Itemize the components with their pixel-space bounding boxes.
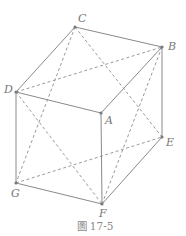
dashed-edge-db [16,47,162,92]
dashed-edge-ge [16,137,162,183]
solid-edge-cd [16,27,75,92]
vertex-points [14,25,163,205]
vertex-label-c: C [78,12,87,25]
solid-edges [16,27,162,204]
vertex-label-e: E [165,136,174,149]
vertex-point-c [73,25,76,28]
dashed-edge-cg [16,27,75,183]
solid-edge-fe [102,137,162,204]
figure-caption: 圖 17-5 [77,220,114,232]
cube-diagram: ABCDEFG 圖 17-5 [0,0,186,236]
vertex-point-g [14,181,17,184]
vertex-label-b: B [167,40,176,53]
vertex-point-a [99,111,102,114]
vertex-point-f [100,202,103,205]
dashed-edges [16,27,162,204]
vertex-point-e [160,135,163,138]
vertex-labels: ABCDEFG [3,12,176,220]
vertex-point-b [160,45,163,48]
vertex-label-d: D [3,83,13,96]
vertex-point-d [14,90,17,93]
vertex-label-a: A [104,114,113,127]
vertex-label-g: G [11,187,20,200]
vertex-label-f: F [98,207,107,220]
solid-edge-ab [101,47,162,113]
solid-edge-gf [16,183,102,204]
solid-edge-cb [75,27,162,47]
solid-edge-af [101,113,102,204]
solid-edge-da [16,92,101,113]
